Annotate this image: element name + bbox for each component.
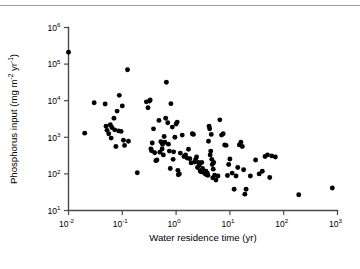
data-point bbox=[172, 135, 177, 140]
data-point bbox=[221, 131, 226, 136]
data-point bbox=[104, 124, 109, 129]
data-point bbox=[199, 160, 204, 165]
data-point bbox=[166, 142, 171, 147]
data-point bbox=[122, 143, 127, 148]
data-point bbox=[296, 192, 301, 197]
data-point bbox=[330, 186, 335, 191]
data-point bbox=[164, 80, 169, 85]
data-point bbox=[120, 103, 125, 108]
data-point bbox=[242, 192, 247, 197]
data-point bbox=[217, 117, 222, 122]
data-point bbox=[180, 133, 185, 138]
chart-canvas: 10-210-1100101102103 101102103104105106 … bbox=[0, 0, 360, 269]
data-point bbox=[168, 166, 173, 171]
x-tick-label: 100 bbox=[168, 217, 182, 229]
data-point bbox=[119, 129, 124, 134]
data-point bbox=[191, 132, 196, 137]
data-point bbox=[232, 187, 237, 192]
x-tick-labels: 10-210-1100101102103 bbox=[59, 217, 343, 229]
scatter-plot: 10-210-1100101102103 101102103104105106 … bbox=[0, 0, 360, 269]
figure-root: 10-210-1100101102103 101102103104105106 … bbox=[0, 0, 360, 269]
data-point bbox=[117, 93, 122, 98]
data-point bbox=[216, 173, 221, 178]
data-point bbox=[92, 100, 97, 105]
data-point bbox=[148, 97, 153, 102]
data-point bbox=[187, 156, 192, 161]
data-point bbox=[234, 173, 239, 178]
y-tick-label: 105 bbox=[47, 58, 61, 70]
data-point bbox=[103, 102, 108, 107]
data-point bbox=[248, 173, 253, 178]
data-point bbox=[113, 144, 118, 149]
data-point bbox=[211, 167, 216, 172]
y-tick-label: 106 bbox=[47, 21, 61, 33]
data-point bbox=[167, 149, 172, 154]
data-point bbox=[241, 167, 246, 172]
data-point bbox=[163, 116, 168, 121]
data-point bbox=[267, 175, 272, 180]
data-point bbox=[82, 131, 87, 136]
data-point bbox=[225, 173, 230, 178]
y-axis-title: Phosphorus input (mg m-2 yr-1) bbox=[7, 54, 19, 184]
data-point bbox=[205, 173, 210, 178]
data-point bbox=[106, 131, 111, 136]
data-point bbox=[211, 160, 216, 165]
data-point bbox=[150, 141, 155, 146]
ticks-group bbox=[64, 28, 338, 216]
data-point bbox=[157, 118, 162, 123]
data-point bbox=[171, 157, 176, 162]
data-point bbox=[240, 144, 245, 149]
data-point bbox=[135, 170, 140, 175]
data-point bbox=[244, 187, 249, 192]
y-tick-label: 102 bbox=[47, 168, 61, 180]
data-point bbox=[115, 109, 120, 114]
y-tick-labels: 101102103104105106 bbox=[47, 21, 61, 216]
axes-group bbox=[69, 28, 338, 211]
data-point bbox=[109, 136, 114, 141]
data-point bbox=[207, 126, 212, 131]
data-point bbox=[194, 155, 199, 160]
y-tick-label: 101 bbox=[47, 204, 61, 216]
data-point bbox=[235, 165, 240, 170]
data-point bbox=[260, 169, 265, 174]
data-points-group bbox=[66, 50, 335, 197]
x-tick-label: 10-2 bbox=[59, 217, 75, 229]
data-point bbox=[151, 126, 156, 131]
data-point bbox=[154, 158, 159, 163]
x-tick-label: 102 bbox=[275, 217, 289, 229]
axis-titles: Water residence time (yr)Phosphorus inpu… bbox=[7, 54, 257, 243]
data-point bbox=[66, 50, 71, 55]
data-point bbox=[125, 67, 130, 72]
data-point bbox=[175, 120, 180, 125]
data-point bbox=[152, 150, 157, 155]
data-point bbox=[209, 132, 214, 137]
x-tick-label: 101 bbox=[221, 217, 235, 229]
data-point bbox=[186, 147, 191, 152]
data-point bbox=[253, 158, 258, 163]
data-point bbox=[146, 105, 151, 110]
data-point bbox=[160, 147, 165, 152]
data-point bbox=[226, 162, 231, 167]
data-point bbox=[227, 157, 232, 162]
data-point bbox=[162, 134, 167, 139]
data-point bbox=[171, 149, 176, 154]
data-point bbox=[224, 143, 229, 148]
data-point bbox=[208, 149, 213, 154]
data-point bbox=[206, 139, 211, 144]
data-point bbox=[161, 152, 166, 157]
data-point bbox=[121, 138, 126, 143]
y-tick-label: 103 bbox=[47, 131, 61, 143]
data-point bbox=[168, 101, 173, 106]
x-tick-label: 103 bbox=[329, 217, 343, 229]
data-point bbox=[273, 155, 278, 160]
data-point bbox=[265, 152, 270, 157]
y-tick-label: 104 bbox=[47, 94, 61, 106]
data-point bbox=[170, 125, 175, 130]
data-point bbox=[126, 139, 131, 144]
data-point bbox=[165, 120, 170, 125]
data-point bbox=[238, 140, 243, 145]
x-axis-title: Water residence time (yr) bbox=[149, 232, 256, 243]
data-point bbox=[177, 171, 182, 176]
axis-spine bbox=[69, 28, 338, 211]
x-tick-label: 10-1 bbox=[113, 217, 129, 229]
